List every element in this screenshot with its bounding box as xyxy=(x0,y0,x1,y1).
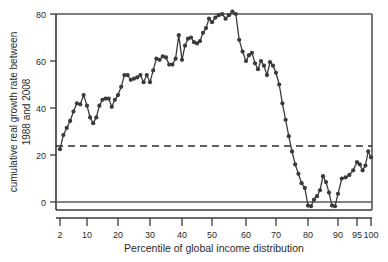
y-tick-label-40: 40 xyxy=(36,104,46,114)
y-axis-ticks: 80 60 40 20 0 xyxy=(36,10,56,208)
data-point xyxy=(324,180,328,184)
data-point xyxy=(274,71,278,75)
data-point xyxy=(259,59,263,63)
chart-figure: cumulative real growth rate between 1988… xyxy=(0,0,388,262)
data-point xyxy=(91,121,95,125)
data-point xyxy=(210,20,214,24)
data-point xyxy=(158,58,162,62)
data-point xyxy=(287,134,291,138)
x-tick-label-90: 90 xyxy=(333,230,343,240)
data-point xyxy=(116,93,120,97)
data-point xyxy=(303,186,307,190)
data-point xyxy=(97,104,101,108)
data-point xyxy=(340,176,344,180)
data-point xyxy=(256,67,260,71)
data-point xyxy=(220,12,224,16)
data-point xyxy=(204,26,208,30)
y-tick-label-80: 80 xyxy=(36,10,46,20)
data-point xyxy=(170,62,174,66)
data-point xyxy=(347,173,351,177)
elephant-curve-chart: cumulative real growth rate between 1988… xyxy=(0,0,388,262)
x-tick-label-100: 100 xyxy=(363,230,378,240)
x-tick-label-60: 60 xyxy=(241,230,251,240)
data-point xyxy=(309,204,313,208)
x-tick-label-50: 50 xyxy=(207,230,217,240)
data-point xyxy=(336,192,340,196)
x-tick-label-95: 95 xyxy=(352,230,362,240)
data-point xyxy=(293,162,297,166)
data-point xyxy=(207,17,211,21)
data-point xyxy=(333,204,337,208)
data-point xyxy=(68,119,72,123)
data-point xyxy=(183,44,187,48)
data-point xyxy=(296,172,300,176)
data-point xyxy=(148,80,152,84)
data-point xyxy=(189,35,193,39)
data-point xyxy=(321,174,325,178)
data-point xyxy=(142,80,146,84)
data-point xyxy=(344,175,348,179)
x-tick-label-10: 10 xyxy=(82,230,92,240)
data-point xyxy=(145,73,149,77)
y-tick-label-0: 0 xyxy=(41,198,46,208)
data-point xyxy=(241,50,245,54)
data-point xyxy=(180,58,184,62)
data-point xyxy=(253,61,257,65)
data-point xyxy=(138,73,142,77)
data-point xyxy=(198,39,202,43)
data-point xyxy=(78,102,82,106)
data-point xyxy=(318,188,322,192)
data-point xyxy=(164,55,168,59)
data-point xyxy=(369,155,373,159)
y-axis-label-line1: cumulative real growth rate between xyxy=(8,32,19,193)
data-point xyxy=(126,73,130,77)
data-point xyxy=(262,64,266,68)
data-point xyxy=(58,147,62,151)
data-point xyxy=(224,17,228,21)
y-axis-label-line2: 1988 and 2008 xyxy=(21,78,32,145)
data-point xyxy=(82,93,86,97)
data-point xyxy=(327,191,331,195)
data-point xyxy=(88,115,92,119)
data-point xyxy=(113,98,117,102)
data-point xyxy=(290,149,294,153)
x-tick-label-40: 40 xyxy=(177,230,187,240)
data-point xyxy=(265,73,269,77)
data-point xyxy=(271,64,275,68)
data-point xyxy=(237,38,241,42)
data-point xyxy=(361,168,365,172)
x-tick-label-20: 20 xyxy=(113,230,123,240)
y-tick-label-20: 20 xyxy=(36,151,46,161)
data-point xyxy=(107,97,111,101)
data-point xyxy=(201,31,205,35)
data-point xyxy=(277,82,281,86)
data-point xyxy=(234,12,238,16)
data-point xyxy=(363,163,367,167)
data-point xyxy=(151,68,155,72)
data-point xyxy=(351,168,355,172)
y-axis-label: cumulative real growth rate between 1988… xyxy=(8,32,32,193)
data-point xyxy=(366,149,370,153)
data-point xyxy=(300,181,304,185)
data-point xyxy=(280,101,284,105)
data-point xyxy=(119,85,123,89)
data-point xyxy=(268,60,272,64)
x-tick-label-70: 70 xyxy=(271,230,281,240)
data-point xyxy=(312,198,316,202)
data-point xyxy=(177,33,181,37)
data-point xyxy=(244,59,248,63)
x-axis-label: Percentile of global income distribution xyxy=(124,242,304,254)
x-tick-label-2: 2 xyxy=(57,230,62,240)
data-point xyxy=(358,162,362,166)
data-point xyxy=(110,105,114,109)
data-point xyxy=(61,133,65,137)
series-markers-growth-rate xyxy=(58,10,373,209)
data-point xyxy=(315,194,319,198)
data-point xyxy=(71,109,75,113)
x-axis-ticks: 210203040506070809095100 xyxy=(56,218,379,240)
data-point xyxy=(250,51,254,55)
data-point xyxy=(94,115,98,119)
data-point xyxy=(284,118,288,122)
x-tick-label-30: 30 xyxy=(145,230,155,240)
x-tick-label-80: 80 xyxy=(303,230,313,240)
